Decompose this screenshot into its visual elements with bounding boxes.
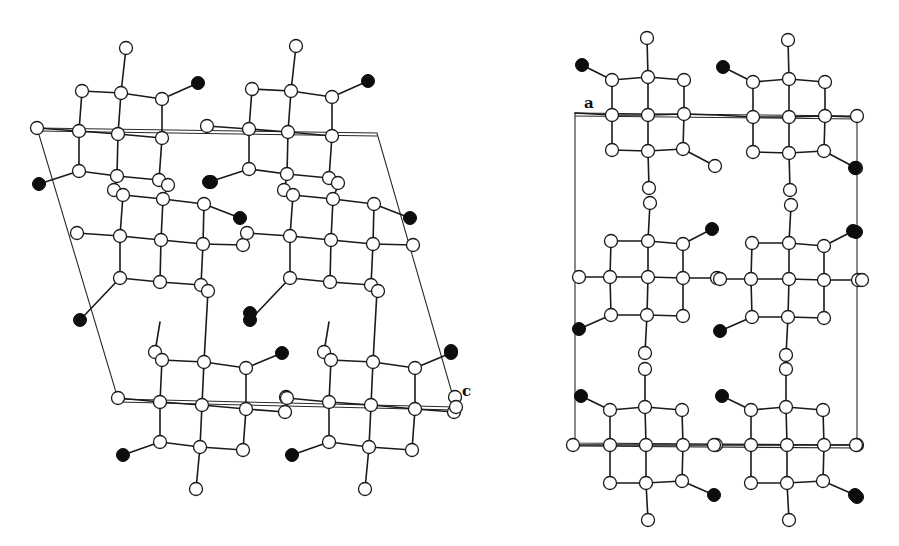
atom-filled	[716, 390, 729, 403]
atom-open	[407, 239, 420, 252]
atom-filled	[205, 176, 218, 189]
atom-open	[246, 83, 259, 96]
atom-filled	[234, 212, 247, 225]
atom-open	[406, 444, 419, 457]
atom-open	[745, 404, 758, 417]
atom-open	[780, 401, 793, 414]
atom-open	[240, 362, 253, 375]
axis-label-a: a	[584, 94, 594, 112]
atom-open	[114, 272, 127, 285]
atom-open	[154, 276, 167, 289]
atom-open	[856, 274, 869, 287]
atom-filled	[244, 307, 257, 320]
atom-open	[641, 309, 654, 322]
atom-open	[604, 439, 617, 452]
atom-open	[112, 128, 125, 141]
atom-open	[323, 436, 336, 449]
atom-open	[746, 311, 759, 324]
atom-open	[678, 74, 691, 87]
atom-open	[782, 34, 795, 47]
atom-open	[606, 109, 619, 122]
atom-open	[332, 177, 345, 190]
atom-open	[678, 108, 691, 121]
atom-open	[363, 441, 376, 454]
atom-open	[641, 32, 654, 45]
atom-open	[642, 145, 655, 158]
atom-open	[783, 147, 796, 160]
atom-open	[643, 182, 656, 195]
atom-open	[642, 271, 655, 284]
atom-filled	[714, 325, 727, 338]
atom-open	[781, 439, 794, 452]
atom-open	[281, 392, 294, 405]
atom-open	[639, 363, 652, 376]
atom-open	[409, 403, 422, 416]
atom-open	[327, 193, 340, 206]
left-atoms	[31, 40, 463, 496]
atom-open	[367, 356, 380, 369]
atom-open	[780, 349, 793, 362]
atom-open	[279, 406, 292, 419]
atom-open	[677, 310, 690, 323]
atom-open	[818, 240, 831, 253]
atom-filled	[286, 449, 299, 462]
atom-open	[368, 198, 381, 211]
atom-open	[746, 237, 759, 250]
atom-open	[783, 237, 796, 250]
atom-open	[567, 439, 580, 452]
atom-open	[783, 273, 796, 286]
atom-filled	[74, 314, 87, 327]
axis-label-c: c	[462, 382, 471, 400]
atom-open	[290, 40, 303, 53]
atom-open	[284, 230, 297, 243]
atom-open	[784, 184, 797, 197]
atom-open	[281, 168, 294, 181]
atom-open	[326, 130, 339, 143]
atom-open	[708, 439, 721, 452]
atom-open	[243, 123, 256, 136]
atom-open	[156, 132, 169, 145]
bond	[80, 278, 120, 320]
atom-open	[196, 399, 209, 412]
atom-open	[241, 227, 254, 240]
atom-open	[73, 125, 86, 138]
atom-open	[326, 91, 339, 104]
bond	[373, 291, 377, 362]
atom-open	[71, 227, 84, 240]
atom-filled	[851, 491, 864, 504]
atom-open	[605, 235, 618, 248]
atom-open	[323, 396, 336, 409]
atom-open	[573, 271, 586, 284]
atom-open	[450, 401, 463, 414]
atom-open	[201, 120, 214, 133]
atom-open	[604, 404, 617, 417]
atom-open	[747, 146, 760, 159]
atom-open	[240, 403, 253, 416]
atom-open	[606, 144, 619, 157]
atom-open	[782, 311, 795, 324]
atom-open	[325, 354, 338, 367]
atom-open	[120, 42, 133, 55]
atom-open	[642, 71, 655, 84]
left-bonds	[37, 46, 454, 489]
atom-open	[114, 230, 127, 243]
atom-open	[409, 362, 422, 375]
atom-open	[639, 347, 652, 360]
atom-open	[287, 189, 300, 202]
atom-open	[780, 363, 793, 376]
atom-open	[817, 404, 830, 417]
atom-open	[162, 179, 175, 192]
atom-open	[818, 274, 831, 287]
atom-open	[714, 273, 727, 286]
atom-filled	[404, 212, 417, 225]
atom-filled	[850, 226, 863, 239]
atom-open	[243, 163, 256, 176]
right-projection-panel: a	[567, 32, 869, 527]
atom-open	[677, 272, 690, 285]
atom-filled	[706, 223, 719, 236]
atom-open	[642, 514, 655, 527]
atom-open	[677, 143, 690, 156]
atom-filled	[445, 345, 458, 358]
atom-filled	[192, 77, 205, 90]
atom-open	[783, 514, 796, 527]
